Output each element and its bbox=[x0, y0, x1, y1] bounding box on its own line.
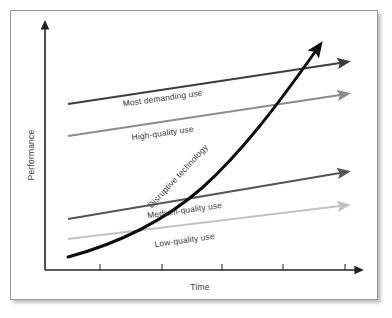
series-line-high-quality-use bbox=[68, 95, 340, 136]
disruptive-innovation-chart: Most demanding use High-quality use Disr… bbox=[0, 0, 392, 318]
figure-root: Most demanding use High-quality use Disr… bbox=[0, 0, 392, 318]
series-line-most-demanding-use bbox=[68, 63, 340, 104]
x-axis-ticks bbox=[100, 264, 345, 270]
x-axis-title: Time bbox=[190, 282, 209, 292]
series-label-high-quality-use: High-quality use bbox=[131, 124, 194, 143]
y-axis-title: Performance bbox=[26, 129, 36, 180]
series-labels-group: Most demanding use High-quality use Disr… bbox=[122, 87, 223, 249]
series-label-low-quality-use: Low-quality use bbox=[154, 231, 215, 249]
